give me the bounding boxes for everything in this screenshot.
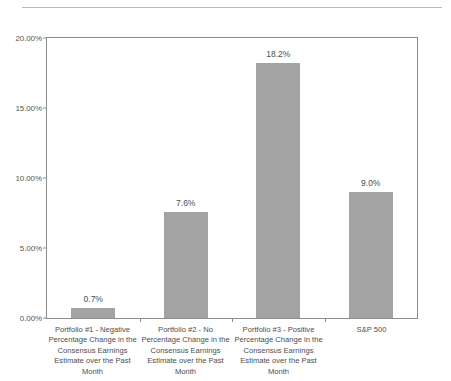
bar-value-label-sp500: 9.0% [361, 178, 380, 188]
y-axis-tickmark-10 [43, 178, 47, 179]
bar-value-label-portfolio-2: 7.6% [176, 198, 195, 208]
x-axis-tickmark-2 [232, 318, 233, 322]
bar-portfolio-3[interactable]: 18.2% [256, 63, 300, 318]
bar-chart: 0.00% 5.00% 10.00% 15.00% 20.00% 0.7% 7.… [0, 0, 451, 381]
y-axis-tickmark-0 [43, 318, 47, 319]
x-axis-tickmark-3 [325, 318, 326, 322]
bar-value-label-portfolio-3: 18.2% [266, 49, 290, 59]
y-axis-tickmark-15 [43, 108, 47, 109]
y-axis-tickmark-5 [43, 248, 47, 249]
bar-portfolio-1[interactable]: 0.7% [71, 308, 115, 318]
x-axis-category-label-portfolio-2: Portfolio #2 - No Percentage Change in t… [139, 325, 232, 377]
y-axis-tickmark-20 [43, 38, 47, 39]
x-axis-category-label-portfolio-3: Portfolio #3 - Positive Percentage Chang… [232, 325, 325, 377]
bar-portfolio-2[interactable]: 7.6% [164, 212, 208, 318]
bar-sp500[interactable]: 9.0% [349, 192, 393, 318]
bar-value-label-portfolio-1: 0.7% [84, 294, 103, 304]
x-axis-tickmark-1 [140, 318, 141, 322]
x-axis-category-label-portfolio-1: Portfolio #1 - Negative Percentage Chang… [46, 325, 139, 377]
x-axis-category-label-sp500: S&P 500 [325, 325, 418, 335]
plot-area: 0.00% 5.00% 10.00% 15.00% 20.00% 0.7% 7.… [46, 37, 418, 319]
